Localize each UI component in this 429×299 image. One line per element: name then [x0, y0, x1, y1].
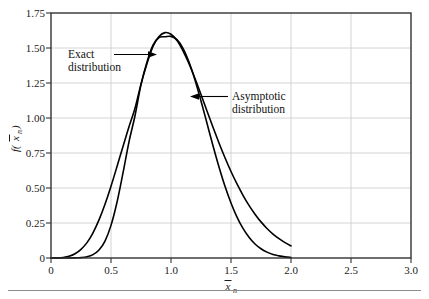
distribution-chart: 0 0.5 1.0 1.5 2.0 2.5 3.0 0 0.25 0.50 0.…: [0, 0, 429, 299]
y-tick-label: 0: [40, 252, 46, 264]
x-tick-label: 0.5: [104, 264, 118, 276]
x-axis-title: x n: [225, 280, 238, 295]
y-axis-title: f( x n ): [9, 125, 24, 152]
x-tick-label: 2.5: [344, 264, 358, 276]
y-tick-label: 1.50: [26, 42, 46, 54]
x-tick-label: 2.0: [284, 264, 298, 276]
y-axis-title-subscript: n: [15, 130, 24, 134]
annotation-exact-line2: distribution: [68, 61, 121, 73]
y-tick-label: 0.50: [26, 182, 46, 194]
y-tick-label: 1.00: [26, 112, 46, 124]
footer-divider: [8, 290, 421, 291]
y-tick-label: 0.75: [26, 147, 46, 159]
x-axis-tick-labels: 0 0.5 1.0 1.5 2.0 2.5 3.0: [48, 264, 418, 276]
x-tick-label: 1.5: [224, 264, 238, 276]
figure-container: 0 0.5 1.0 1.5 2.0 2.5 3.0 0 0.25 0.50 0.…: [0, 0, 429, 299]
x-tick-label: 0: [48, 264, 54, 276]
y-tick-label: 1.25: [26, 77, 46, 89]
x-tick-label: 3.0: [404, 264, 418, 276]
x-tick-label: 1.0: [164, 264, 178, 276]
y-axis-title-base: x: [9, 136, 21, 142]
annotation-asymptotic-line2: distribution: [232, 103, 285, 115]
y-axis-title-prefix: f(: [9, 144, 22, 152]
annotation-asymptotic-line1: Asymptotic: [232, 90, 286, 103]
x-axis-ticks: [51, 258, 411, 263]
y-tick-label: 1.75: [26, 7, 46, 19]
annotation-exact-line1: Exact: [68, 48, 95, 60]
y-axis-ticks: [46, 13, 51, 258]
y-axis-tick-labels: 0 0.25 0.50 0.75 1.00 1.25 1.50 1.75: [26, 7, 46, 264]
y-axis-title-suffix: ): [9, 125, 22, 130]
y-tick-label: 0.25: [26, 217, 46, 229]
